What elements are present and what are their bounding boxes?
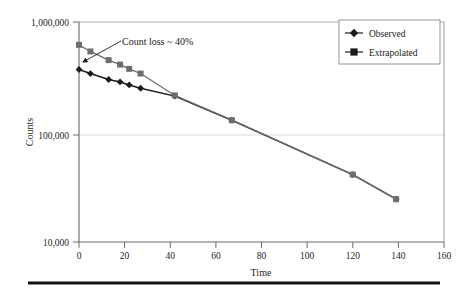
y-axis-title: Counts (24, 118, 35, 146)
footer-rule (28, 282, 440, 285)
legend-entry-observed[interactable]: Observed (345, 29, 406, 39)
x-tick-label-80: 80 (257, 251, 267, 261)
y-tick-label-100000: 100,000 (38, 131, 69, 141)
x-tick-label-40: 40 (166, 251, 176, 261)
square-marker-icon (106, 57, 112, 63)
square-marker-icon (117, 62, 123, 68)
x-tick-label-140: 140 (391, 251, 406, 261)
x-tick-label-100: 100 (300, 251, 315, 261)
semilog-decay-chart: 1,000,000 100,000 10,000 0 20 40 60 80 1… (0, 0, 467, 294)
square-marker-icon (87, 48, 93, 54)
y-tick-label-10000: 10,000 (43, 238, 69, 248)
legend-label-observed: Observed (369, 29, 406, 39)
x-tick-label-160: 160 (437, 251, 452, 261)
square-marker-icon (350, 48, 357, 55)
x-tick-label-120: 120 (346, 251, 361, 261)
x-tick-label-0: 0 (77, 251, 82, 261)
legend: Observed Extrapolated (339, 20, 440, 64)
square-marker-icon (350, 172, 356, 178)
square-marker-icon (393, 196, 399, 202)
figure-container: 1,000,000 100,000 10,000 0 20 40 60 80 1… (0, 0, 467, 294)
square-marker-icon (138, 71, 144, 77)
x-axis-ticks (79, 242, 444, 248)
legend-label-extrapolated: Extrapolated (369, 48, 418, 58)
x-axis-title: Time (251, 267, 272, 278)
square-marker-icon (229, 117, 235, 123)
square-marker-icon (76, 42, 82, 48)
annotation-label: Count loss ~ 40% (122, 36, 193, 47)
x-tick-label-20: 20 (120, 251, 130, 261)
square-marker-icon (172, 92, 178, 98)
square-marker-icon (126, 66, 132, 72)
x-tick-label-60: 60 (211, 251, 221, 261)
y-axis-ticks (73, 22, 79, 242)
y-tick-label-1000000: 1,000,000 (31, 18, 69, 28)
